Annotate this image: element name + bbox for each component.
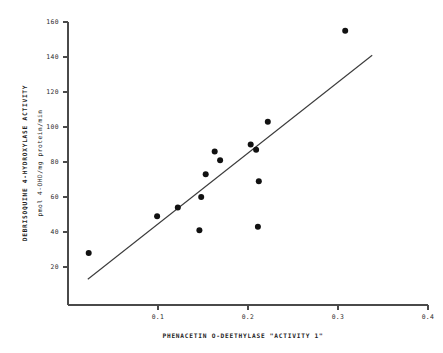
y-tick-label: 20 [51, 263, 60, 271]
data-point [253, 147, 259, 153]
x-tick-label: 0.4 [422, 313, 435, 321]
data-point [86, 250, 92, 256]
y-tick-label: 120 [46, 88, 59, 96]
tick-labels-group: 204060801001201401600.10.20.30.4 [46, 18, 434, 321]
data-point [255, 224, 261, 230]
y-tick-label: 160 [46, 18, 59, 26]
y-tick-label: 80 [51, 158, 60, 166]
y-axis-title: DEBRISOQUINE 4-HYDROXYLASE ACTIVITY [21, 85, 28, 242]
data-point [342, 28, 348, 34]
fit-line-group [88, 55, 372, 279]
data-point [212, 149, 218, 155]
x-tick-label: 0.2 [242, 313, 255, 321]
data-point [203, 171, 209, 177]
x-tick-label: 0.1 [152, 313, 165, 321]
data-point [154, 213, 160, 219]
axes-group [63, 22, 428, 310]
axis-titles-group: DEBRISOQUINE 4-HYDROXYLASE ACTIVITYpmol … [21, 85, 324, 339]
data-point [196, 227, 202, 233]
regression-line [88, 55, 372, 279]
y-tick-label: 140 [46, 53, 59, 61]
data-point [217, 157, 223, 163]
data-point [256, 178, 262, 184]
data-point [265, 119, 271, 125]
y-tick-label: 60 [51, 193, 60, 201]
x-axis-title: PHENACETIN O-DEETHYLASE "ACTIVITY 1" [162, 332, 323, 339]
y-tick-label: 100 [46, 123, 59, 131]
data-point [248, 142, 254, 148]
plot-canvas: 204060801001201401600.10.20.30.4 DEBRISO… [0, 0, 443, 353]
y-axis-subtitle: pmol 4-OHD/mg protein/min [36, 110, 44, 217]
data-point [198, 194, 204, 200]
data-points-group [86, 28, 349, 256]
scatter-plot-figure: 204060801001201401600.10.20.30.4 DEBRISO… [0, 0, 443, 353]
y-tick-label: 40 [51, 228, 60, 236]
x-tick-label: 0.3 [332, 313, 345, 321]
data-point [175, 205, 181, 211]
